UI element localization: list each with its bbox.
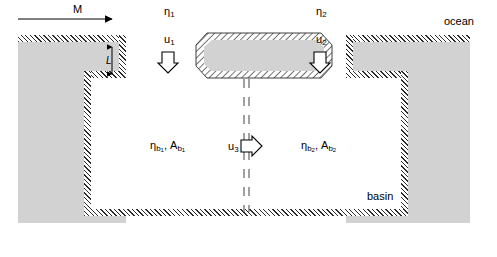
inlet2-elevation-label: η2 [316,6,327,20]
inlet1-flow-arrow [158,52,178,73]
basin1-properties-label: ηb1, Ab1 [150,140,185,156]
figure-canvas: M ocean basin L η1 u1 η2 u2 ηb1, Ab1 ηb2… [0,0,497,257]
channel-width-label: L [106,55,112,66]
inlet1-elevation-label: η1 [164,6,175,20]
mid-island-inner-fill [204,40,324,71]
forcing-label: M [73,4,82,15]
inlet2-velocity-label: u2 [316,34,327,48]
inlet1-velocity-label: u1 [164,34,175,48]
island-group [0,0,497,257]
basin-label: basin [367,191,393,202]
basin2-properties-label: ηb2, Ab2 [301,140,336,156]
exchange-velocity-label: u3 [228,141,239,155]
left-land-inner-corner [84,35,126,78]
ocean-label: ocean [444,16,474,27]
